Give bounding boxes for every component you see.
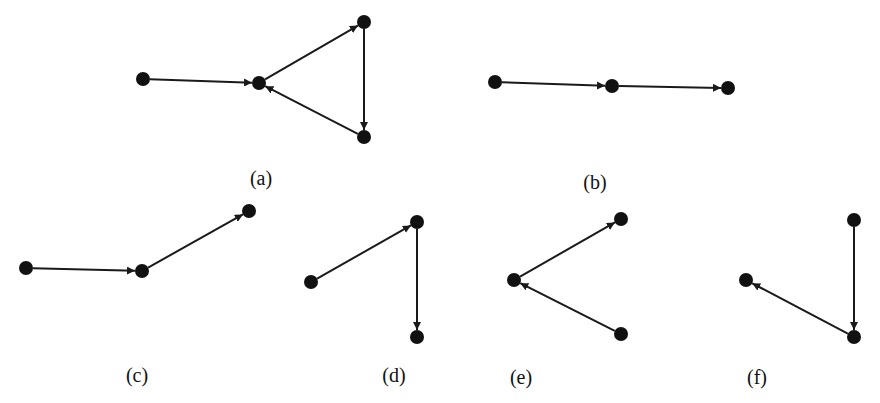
edge-e	[520, 222, 615, 276]
node-e-1	[614, 212, 628, 226]
edge-b	[502, 82, 605, 86]
edge-e	[520, 283, 615, 331]
node-d-2	[410, 330, 424, 344]
node-d-0	[304, 275, 318, 289]
panel-label-f: (f)	[747, 367, 767, 387]
edges-layer	[33, 26, 854, 334]
edge-b	[619, 86, 721, 88]
node-f-0	[739, 273, 753, 287]
node-a-1	[252, 76, 266, 90]
node-f-1	[847, 213, 861, 227]
edge-a	[265, 26, 358, 80]
nodes-layer	[19, 15, 861, 344]
panel-label-d: (d)	[382, 365, 405, 385]
node-c-0	[19, 261, 33, 275]
edge-c	[148, 214, 243, 267]
edge-a	[265, 86, 358, 134]
node-d-1	[410, 215, 424, 229]
node-b-0	[488, 75, 502, 89]
edge-c	[33, 268, 135, 271]
panel-label-c: (c)	[126, 365, 148, 385]
panel-label-a: (a)	[250, 168, 272, 188]
node-c-1	[135, 264, 149, 278]
edge-f	[752, 283, 848, 333]
edge-d	[317, 225, 411, 278]
node-a-0	[136, 72, 150, 86]
edge-a	[150, 79, 252, 83]
node-a-2	[357, 15, 371, 29]
panel-label-e: (e)	[510, 367, 532, 387]
node-b-2	[721, 81, 735, 95]
node-e-2	[614, 327, 628, 341]
panel-label-b: (b)	[583, 172, 606, 192]
node-c-2	[242, 204, 256, 218]
node-b-1	[605, 79, 619, 93]
node-a-3	[357, 130, 371, 144]
node-f-2	[847, 330, 861, 344]
graph-figure	[0, 0, 880, 403]
node-e-0	[507, 273, 521, 287]
